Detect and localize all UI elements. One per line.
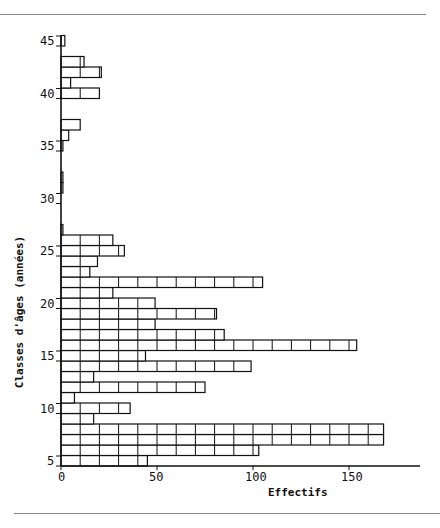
bar <box>61 298 155 309</box>
bar <box>61 309 217 320</box>
bar <box>61 78 71 89</box>
y-tick-label: 20 <box>40 297 54 311</box>
y-tick-label: 35 <box>40 139 54 153</box>
y-tick-label: 25 <box>40 244 54 258</box>
bar <box>61 267 90 278</box>
y-tick-label: 30 <box>40 192 54 206</box>
x-tick-label: 50 <box>149 470 163 484</box>
bar <box>61 340 357 351</box>
bar <box>61 445 259 456</box>
x-axis-title: Effectifs <box>268 486 328 499</box>
bar <box>61 393 74 404</box>
y-tick-label: 45 <box>40 34 54 48</box>
x-tick-label: 0 <box>58 470 65 484</box>
y-tick-label: 15 <box>40 349 54 363</box>
bar <box>61 288 113 299</box>
bar <box>61 456 147 467</box>
bar <box>61 435 384 446</box>
bar <box>61 88 99 99</box>
bar <box>61 372 94 383</box>
bar <box>61 330 224 341</box>
bar <box>61 235 113 246</box>
bar <box>61 130 69 141</box>
bar <box>61 277 263 288</box>
y-axis-title: Classes d'âges (années) <box>13 236 26 388</box>
bar <box>61 351 145 362</box>
bar <box>61 424 384 435</box>
x-tick-label: 150 <box>341 470 363 484</box>
bars-group <box>61 36 384 467</box>
bar <box>61 319 155 330</box>
y-tick-label: 40 <box>40 87 54 101</box>
bar <box>61 57 84 68</box>
x-tick-label: 100 <box>245 470 267 484</box>
y-tick-label: 10 <box>40 402 54 416</box>
bar <box>61 361 251 372</box>
bar <box>61 246 124 257</box>
bar <box>61 403 130 414</box>
bar <box>61 414 94 425</box>
bar <box>61 120 80 131</box>
y-tick-label: 5 <box>47 454 54 468</box>
bar <box>61 256 97 267</box>
bar <box>61 382 205 393</box>
bar <box>61 67 101 78</box>
